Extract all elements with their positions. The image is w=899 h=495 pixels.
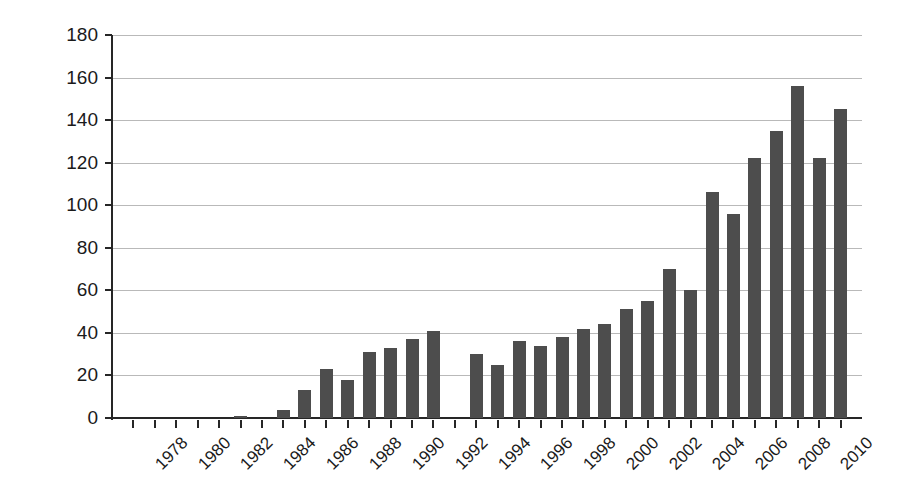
x-axis-tick (754, 420, 756, 428)
bar (641, 301, 654, 418)
bar (513, 341, 526, 418)
x-axis-tick (582, 420, 584, 428)
x-axis-tick-label: 1990 (409, 434, 448, 473)
x-axis-tick (540, 420, 542, 428)
y-axis-tick-label: 180 (38, 25, 98, 44)
x-axis-tick (797, 420, 799, 428)
x-axis-tick-label: 1996 (538, 434, 577, 473)
x-axis-tick (432, 420, 434, 428)
y-axis-tick (105, 374, 112, 376)
bar (363, 352, 376, 418)
x-axis-tick-label: 2008 (795, 434, 834, 473)
bar (770, 131, 783, 418)
x-axis-tick-label: 1994 (495, 434, 534, 473)
x-axis-tick (282, 420, 284, 428)
y-axis-tick (105, 247, 112, 249)
bar (556, 337, 569, 418)
x-axis-tick (261, 420, 263, 428)
x-axis-tick (604, 420, 606, 428)
gridline (112, 120, 862, 121)
y-axis-tick (105, 332, 112, 334)
x-axis-tick (197, 420, 199, 428)
y-axis-tick-label: 140 (38, 110, 98, 129)
bar (470, 354, 483, 418)
x-axis-tick (347, 420, 349, 428)
y-axis-line (111, 35, 113, 420)
x-axis-tick (840, 420, 842, 428)
y-axis-tick (105, 417, 112, 419)
x-axis-tick-label: 2002 (666, 434, 705, 473)
x-axis-tick (368, 420, 370, 428)
x-axis-tick (475, 420, 477, 428)
y-axis-tick (105, 162, 112, 164)
y-axis-tick-label: 20 (38, 365, 98, 384)
x-axis-tick-label: 1986 (323, 434, 362, 473)
bar (341, 380, 354, 418)
gridline (112, 78, 862, 79)
x-axis-tick (240, 420, 242, 428)
gridline (112, 35, 862, 36)
y-axis-tick-label: 100 (38, 195, 98, 214)
bar-chart: Number of scientific articles 0204060801… (0, 0, 899, 495)
bar (234, 416, 247, 418)
y-axis-tick-label: 40 (38, 323, 98, 342)
x-axis-tick-label: 1978 (152, 434, 191, 473)
x-axis-tick (175, 420, 177, 428)
bar (706, 192, 719, 418)
x-axis-tick (218, 420, 220, 428)
x-axis-tick (818, 420, 820, 428)
x-axis-tick-label: 1988 (366, 434, 405, 473)
y-axis-tick-label: 160 (38, 68, 98, 87)
bar (748, 158, 761, 418)
bar (813, 158, 826, 418)
bar (534, 346, 547, 418)
x-axis-tick-label: 1992 (452, 434, 491, 473)
y-axis-tick (105, 34, 112, 36)
bar (277, 410, 290, 419)
bar (577, 329, 590, 418)
x-axis-tick (304, 420, 306, 428)
y-axis-tick-label: 60 (38, 280, 98, 299)
bar (427, 331, 440, 418)
y-axis-tick-label: 120 (38, 153, 98, 172)
x-axis-tick-label: 2000 (623, 434, 662, 473)
x-axis-tick (390, 420, 392, 428)
y-axis-tick (105, 119, 112, 121)
x-axis-tick (711, 420, 713, 428)
x-axis-tick (732, 420, 734, 428)
y-axis-tick-label: 80 (38, 238, 98, 257)
x-axis-tick (625, 420, 627, 428)
y-axis-tick (105, 289, 112, 291)
bar (684, 290, 697, 418)
bar (384, 348, 397, 418)
x-axis-tick-label: 2004 (709, 434, 748, 473)
x-axis-tick-label: 1980 (195, 434, 234, 473)
x-axis-tick (325, 420, 327, 428)
plot-area (112, 35, 862, 418)
x-axis-tick (561, 420, 563, 428)
bar (727, 214, 740, 418)
y-axis-tick (105, 77, 112, 79)
y-axis-tick (105, 204, 112, 206)
x-axis-tick (775, 420, 777, 428)
bar (320, 369, 333, 418)
x-axis-tick-label: 1998 (580, 434, 619, 473)
x-axis-tick-label: 1984 (280, 434, 319, 473)
x-axis-tick (497, 420, 499, 428)
bar (491, 365, 504, 418)
x-axis-tick-label: 1982 (238, 434, 277, 473)
x-axis-tick (132, 420, 134, 428)
x-axis-tick (690, 420, 692, 428)
x-axis-tick-label: 2006 (752, 434, 791, 473)
x-axis-tick (647, 420, 649, 428)
x-axis-tick (154, 420, 156, 428)
bar (834, 109, 847, 418)
bar (298, 390, 311, 418)
bar (406, 339, 419, 418)
bar (663, 269, 676, 418)
y-axis-tick-label: 0 (38, 408, 98, 427)
bar (598, 324, 611, 418)
bar (620, 309, 633, 418)
x-axis-ticks (112, 420, 864, 429)
x-axis-tick (454, 420, 456, 428)
